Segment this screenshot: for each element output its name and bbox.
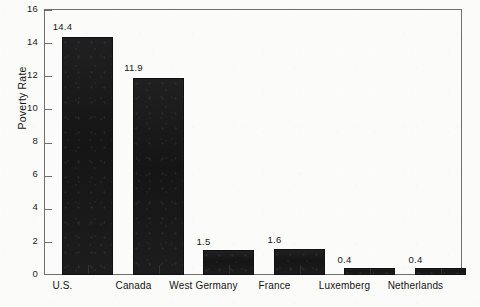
y-tick-label-8: 8 xyxy=(4,135,38,146)
y-tick-label-10: 10 xyxy=(4,102,38,113)
bar-netherlands[interactable] xyxy=(415,268,466,275)
bar-chart-figure: Poverty Rate 16 14 12 10 8 6 4 2 0 14.4 … xyxy=(0,0,480,307)
y-tick-label-12: 12 xyxy=(4,69,38,80)
x-axis-label-us: U.S. xyxy=(27,280,98,291)
bar-value-us: 14.4 xyxy=(37,21,88,32)
y-tick-label-14: 14 xyxy=(4,36,38,47)
y-tick-label-6: 6 xyxy=(4,168,38,179)
bar-france[interactable] xyxy=(274,249,325,276)
bar-value-luxemberg: 0.4 xyxy=(319,254,370,265)
x-axis-label-netherlands: Netherlands xyxy=(380,280,451,291)
x-axis-label-canada: Canada xyxy=(98,280,169,291)
bar-luxemberg[interactable] xyxy=(344,268,395,275)
x-axis-label-france: France xyxy=(239,280,310,291)
bar-canada[interactable] xyxy=(133,78,184,275)
y-tick-label-0: 0 xyxy=(4,268,38,279)
bar-us[interactable] xyxy=(62,37,113,276)
bar-west-germany[interactable] xyxy=(203,250,254,275)
bar-value-netherlands: 0.4 xyxy=(390,254,441,265)
y-tick-label-16: 16 xyxy=(4,3,38,14)
y-tick-label-2: 2 xyxy=(4,235,38,246)
bar-value-canada: 11.9 xyxy=(108,62,159,73)
x-axis-label-luxemberg: Luxemberg xyxy=(309,280,380,291)
bar-value-france: 1.6 xyxy=(249,234,300,245)
y-tick-label-4: 4 xyxy=(4,201,38,212)
bar-value-west-germany: 1.5 xyxy=(178,236,229,247)
x-axis-label-west-germany: West Germany xyxy=(168,280,239,291)
